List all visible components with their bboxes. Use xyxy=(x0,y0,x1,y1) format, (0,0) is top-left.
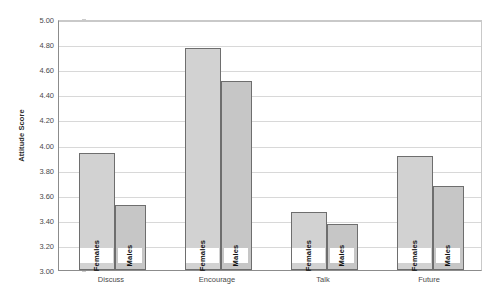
y-axis-tick-label: 3.20 xyxy=(39,241,54,250)
bar-talk-males[interactable]: Males xyxy=(327,224,358,270)
bar-series-label: Females xyxy=(292,248,325,263)
bar-series-label-text: Males xyxy=(443,245,452,267)
bar-series-label-text: Males xyxy=(125,245,134,267)
bar-chart: Attitude Score 5.004.804.604.404.204.003… xyxy=(0,0,502,304)
bar-series-label-text: Females xyxy=(410,240,419,271)
y-axis-tick-label: 4.80 xyxy=(39,41,54,50)
y-axis-tick-label: 4.20 xyxy=(39,116,54,125)
bar-encourage-females[interactable]: Females xyxy=(185,48,221,270)
category-label-talk: Talk xyxy=(316,275,329,284)
bar-future-females[interactable]: Females xyxy=(397,156,433,270)
y-axis-title: Attitude Score xyxy=(14,0,28,271)
bar-series-label: Males xyxy=(224,248,248,263)
category-label-future: Future xyxy=(418,275,440,284)
y-axis-tick-label: 4.00 xyxy=(39,141,54,150)
bars-layer: FemalesMalesFemalesMalesFemalesMalesFema… xyxy=(59,21,481,270)
bar-group: FemalesMales xyxy=(79,21,146,270)
y-axis-tick-label: 5.00 xyxy=(39,16,54,25)
category-label-encourage: Encourage xyxy=(199,275,235,284)
bar-series-label: Females xyxy=(186,248,219,263)
x-axis-category-labels: DiscussEncourageTalkFuture xyxy=(58,275,482,291)
plot-area: FemalesMalesFemalesMalesFemalesMalesFema… xyxy=(58,20,482,271)
bar-group: FemalesMales xyxy=(291,21,358,270)
bar-discuss-males[interactable]: Males xyxy=(115,205,146,270)
bar-encourage-males[interactable]: Males xyxy=(221,81,252,271)
bar-series-label: Males xyxy=(330,248,354,263)
y-axis-tick-label: 3.60 xyxy=(39,191,54,200)
bar-series-label: Males xyxy=(436,248,460,263)
bar-series-label-text: Males xyxy=(231,245,240,267)
y-axis-tick-label: 3.00 xyxy=(39,267,54,276)
y-axis-tick-label: 3.40 xyxy=(39,216,54,225)
y-axis-tick-labels: 5.004.804.604.404.204.003.803.603.403.20… xyxy=(28,20,54,271)
bar-future-males[interactable]: Males xyxy=(433,186,464,270)
bar-talk-females[interactable]: Females xyxy=(291,212,327,270)
category-label-discuss: Discuss xyxy=(98,275,124,284)
bar-series-label: Females xyxy=(80,248,113,263)
bar-series-label: Males xyxy=(118,248,142,263)
y-axis-title-text: Attitude Score xyxy=(17,109,26,162)
bar-discuss-females[interactable]: Females xyxy=(79,153,115,270)
bar-series-label-text: Males xyxy=(337,245,346,267)
y-axis-tick-label: 3.80 xyxy=(39,166,54,175)
bar-series-label: Females xyxy=(398,248,431,263)
bar-series-label-text: Females xyxy=(198,240,207,271)
bar-series-label-text: Females xyxy=(92,240,101,271)
y-axis-tick-label: 4.40 xyxy=(39,91,54,100)
bar-group: FemalesMales xyxy=(397,21,464,270)
bar-series-label-text: Females xyxy=(304,240,313,271)
y-axis-tick-label: 4.60 xyxy=(39,66,54,75)
bar-group: FemalesMales xyxy=(185,21,252,270)
